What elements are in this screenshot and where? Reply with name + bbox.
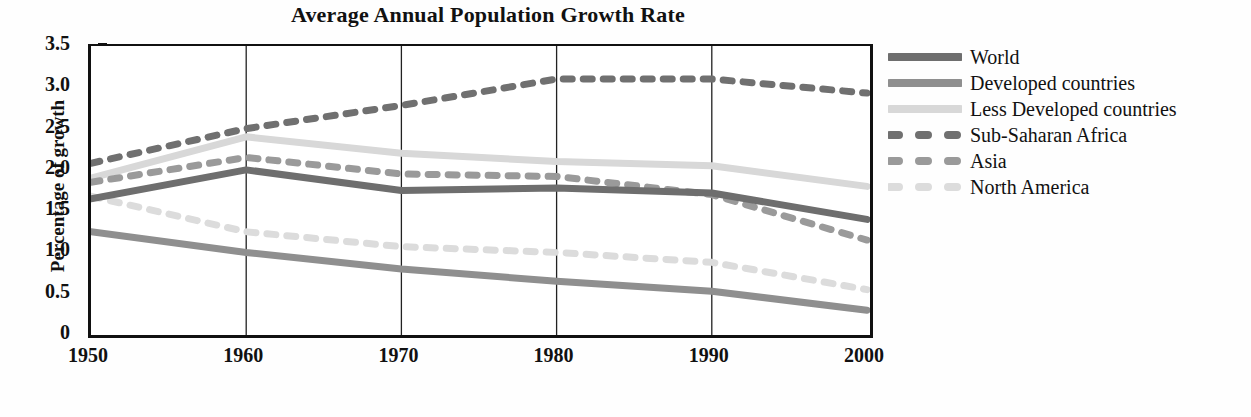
x-tick-label: 1990 xyxy=(654,345,764,365)
y-tick-label: 0.5 xyxy=(18,281,70,301)
legend-solid-line-icon xyxy=(888,46,962,68)
y-tick-label: 1.5 xyxy=(18,198,70,218)
chart-legend: WorldDeveloped countriesLess Developed c… xyxy=(888,44,1248,200)
legend-label: Less Developed countries xyxy=(970,99,1177,119)
legend-item-asia[interactable]: Asia xyxy=(888,148,1248,174)
legend-item-sub-saharan-africa[interactable]: Sub-Saharan Africa xyxy=(888,122,1248,148)
chart-root: Average Annual Population Growth Rate Pe… xyxy=(0,0,1251,417)
plot-area xyxy=(88,44,873,338)
y-tick-label: 1.0 xyxy=(18,239,70,259)
x-tick-label: 1980 xyxy=(499,345,609,365)
legend-dotted-line-icon xyxy=(888,150,962,172)
legend-label: World xyxy=(970,47,1020,67)
x-tick-label: 1950 xyxy=(33,345,143,365)
y-tick-label: 3.5 xyxy=(18,33,70,53)
legend-item-developed-countries[interactable]: Developed countries xyxy=(888,70,1248,96)
x-tick-label: 2000 xyxy=(809,345,919,365)
legend-item-world[interactable]: World xyxy=(888,44,1248,70)
legend-item-north-america[interactable]: North America xyxy=(888,174,1248,200)
y-tick-label: 3.0 xyxy=(18,74,70,94)
x-tick-label: 1970 xyxy=(343,345,453,365)
legend-dotted-line-icon xyxy=(888,124,962,146)
y-tick-label: 2.0 xyxy=(18,157,70,177)
legend-label: Sub-Saharan Africa xyxy=(970,125,1127,145)
plot-svg xyxy=(91,46,870,335)
legend-label: North America xyxy=(970,177,1089,197)
legend-item-less-developed-countries[interactable]: Less Developed countries xyxy=(888,96,1248,122)
x-tick-label: 1960 xyxy=(188,345,298,365)
y-tick-label: 0 xyxy=(18,322,70,342)
legend-label: Developed countries xyxy=(970,73,1135,93)
legend-label: Asia xyxy=(970,151,1007,171)
y-tick-label: 2.5 xyxy=(18,116,70,136)
chart-title: Average Annual Population Growth Rate xyxy=(188,2,788,28)
legend-solid-line-icon xyxy=(888,72,962,94)
legend-dotted-line-icon xyxy=(888,176,962,198)
legend-solid-line-icon xyxy=(888,98,962,120)
